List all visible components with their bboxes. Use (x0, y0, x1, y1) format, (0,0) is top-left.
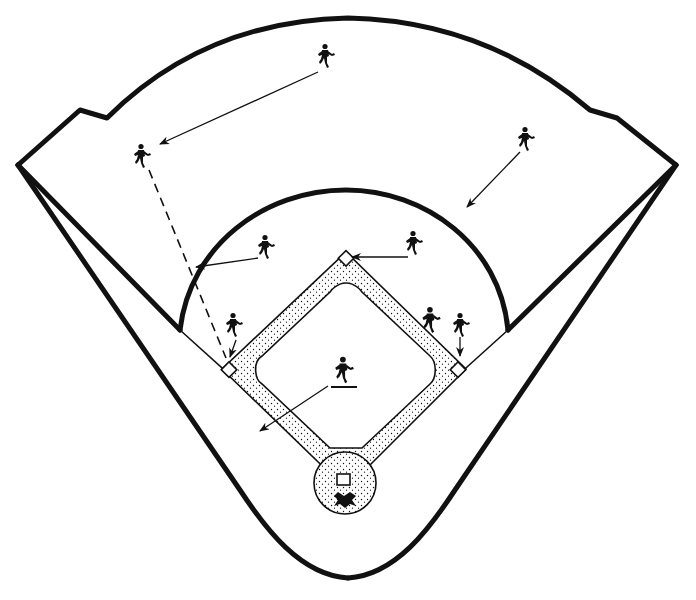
player-second-baseman-icon (406, 231, 423, 255)
baseball-field-diagram (0, 0, 696, 600)
left-foul-line (18, 165, 180, 330)
player-third-baseman-icon (226, 313, 243, 337)
home-plate (337, 474, 350, 485)
outfield-wall (18, 18, 676, 165)
arrow-center-fielder (160, 72, 318, 144)
player-shortstop-icon (258, 235, 275, 259)
pitchers-rubber (331, 386, 357, 388)
player-first-baseman-icon (453, 313, 470, 337)
arrow-right-fielder (467, 152, 520, 207)
right-foul-line (508, 165, 676, 330)
arrow-third-baseman (230, 340, 236, 357)
player-left-fielder-icon (134, 144, 151, 168)
player-right-fielder-icon (518, 127, 535, 151)
player-center-fielder-icon (318, 44, 335, 68)
